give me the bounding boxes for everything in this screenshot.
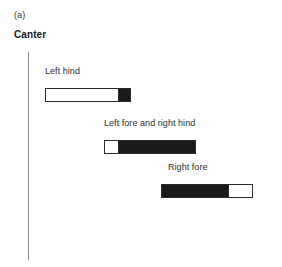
page-bleed-artifact xyxy=(0,0,282,5)
bar-segment-swing xyxy=(46,89,118,101)
bar-label-left-fore-right-hind: Left fore and right hind xyxy=(104,118,195,129)
vertical-axis-line xyxy=(28,52,29,260)
bar-track-left-hind xyxy=(45,88,131,102)
bar-track-right-fore xyxy=(161,184,253,198)
bar-segment-stance xyxy=(119,89,130,101)
bar-segment-stance xyxy=(162,185,228,197)
bar-label-left-hind: Left hind xyxy=(45,66,80,77)
panel-label: (a) xyxy=(14,10,25,21)
bar-segment-swing xyxy=(229,185,252,197)
page-title: Canter xyxy=(14,29,46,41)
bar-track-left-fore-right-hind xyxy=(104,140,196,154)
bar-segment-swing xyxy=(105,141,118,153)
bar-label-right-fore: Right fore xyxy=(168,162,208,173)
gait-diagram-figure: (a) Canter Left hind Left fore and right… xyxy=(0,0,282,267)
bar-segment-stance xyxy=(119,141,195,153)
